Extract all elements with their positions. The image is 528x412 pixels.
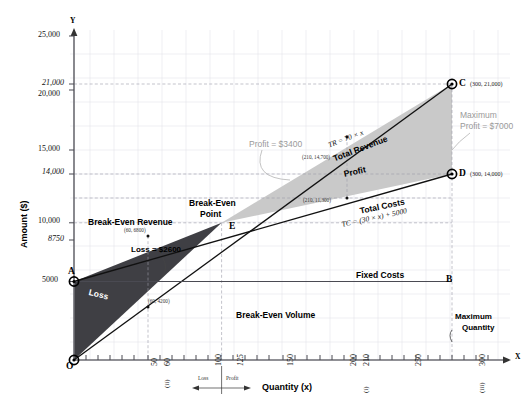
y-tick-20000: 20,000 [38,90,60,98]
y-tick-15000: 15,000 [38,145,60,153]
chart-plot-area [0,0,528,412]
y-tick-14000: 14,000 [42,168,64,176]
x-tick-300-roman: (iii) [479,383,486,394]
break-even-point-line2: Point [200,210,221,219]
x-tick-125: 125 [237,354,245,366]
x-tick-210-roman: (i) [363,386,370,393]
coord-60-6800: (60, 6800) [124,228,146,233]
point-label-A: A [68,267,75,277]
break-even-revenue-label: Break-Even Revenue [88,218,173,227]
point-label-E: E [229,222,235,232]
x-tick-250: 250 [415,354,423,366]
coord-210-14700: (210, 14,700) [302,155,330,160]
y-tick-10000: 10,000 [38,217,60,225]
point-label-O: O [66,362,73,372]
y-tick-8750: 8750 [48,235,64,243]
x-axis-title: Quantity (x) [262,383,312,392]
break-even-volume-label: Break-Even Volume [236,311,315,320]
x-tick-60: 60 [164,358,172,366]
coord-60-4200: (60, 4200) [148,299,170,304]
max-profit-line2: Profit = $7000 [460,122,513,131]
point-label-D: D [459,169,466,179]
fixed-costs-label: Fixed Costs [356,271,404,280]
profit-callout: Profit = $3400 [249,140,302,149]
x-tick-200: 200 [350,354,358,366]
max-qty-line2: Quantity [462,324,494,332]
x-tick-50: 50 [151,358,159,366]
y-axis-arrow-label: Y [70,17,75,25]
point-label-C: C [459,79,466,89]
y-axis-title: Amount ($) [20,201,29,249]
x-tick-100: 100 [215,354,223,366]
y-tick-25000: 25,000 [38,31,60,39]
max-qty-line1: Maximum [455,313,492,321]
coord-210-11300: (210, 11,300) [303,198,331,203]
break-even-point-line1: Break-Even [189,199,236,208]
x-axis-arrow-label: X [515,353,520,361]
x-tick-150: 150 [287,354,295,366]
break-even-chart: 25,000 21,000 20,000 15,000 14,000 10,00… [0,0,528,412]
loss-callout: Loss = $2600 [131,246,181,254]
x-tick-60-roman: (ii) [164,379,171,388]
max-profit-line1: Maximum [460,111,497,120]
point-coord-C: (300, 21,000) [470,81,503,87]
y-tick-21000: 21,000 [42,79,64,87]
divider-profit-label: Profit [226,376,239,382]
divider-loss-label: Loss [198,376,208,382]
point-coord-D: (300, 14,000) [470,171,503,177]
x-tick-210: 210 [363,354,371,366]
y-tick-5000: 5000 [42,276,58,284]
point-label-B: B [446,275,452,285]
x-tick-300: 300 [479,354,487,366]
